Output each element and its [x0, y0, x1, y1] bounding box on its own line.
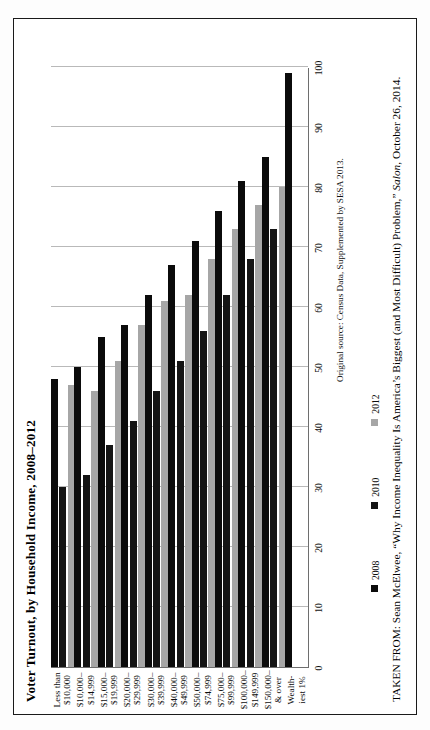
- legend-swatch-2012: [371, 419, 378, 426]
- value-tick-label: 10: [313, 603, 324, 613]
- legend-label-2012: 2012: [370, 394, 381, 413]
- legend-item-2012: 2012: [369, 394, 381, 425]
- value-tick-label: 80: [313, 183, 324, 193]
- caption-publication: Salon: [390, 165, 402, 191]
- value-tick-label: 60: [313, 303, 324, 313]
- bar-2010-5: [177, 361, 184, 667]
- legend-label-2008: 2008: [370, 561, 381, 580]
- book-page: Voter Turnout, by Household Income, 2008…: [0, 0, 430, 730]
- category-label-line-0: $15,000–: [99, 673, 109, 707]
- bar-2008-0: [51, 379, 58, 667]
- category-label-line-0: $75,000–: [216, 673, 226, 707]
- category-label: Wealth-iest 1%: [286, 676, 307, 705]
- category-label-line-0: $20,000–: [122, 673, 132, 707]
- category-label-line-0: Less than: [52, 673, 62, 708]
- bar-2008-6: [192, 241, 199, 667]
- category-label-line-1: $19,999: [109, 673, 119, 707]
- bar-2010-7: [223, 295, 230, 667]
- figure-caption: TAKEN FROM: Sean McElwee, “Why Income In…: [389, 42, 405, 702]
- category-label-line-0: $100,000–: [239, 670, 249, 709]
- category-label: $50,000–$74,999: [192, 673, 213, 707]
- category-label-line-1: $10,000: [62, 673, 72, 708]
- plot-inner: [51, 68, 309, 668]
- figure: Voter Turnout, by Household Income, 2008…: [17, 22, 415, 712]
- bar-2008-9: [262, 157, 269, 667]
- category-label-line-1: $99,999: [226, 673, 236, 707]
- caption-suffix: , October 26, 2014.: [390, 77, 402, 165]
- category-label-line-0: $30,000–: [146, 673, 156, 707]
- category-label-line-1: $29,999: [132, 673, 142, 707]
- category-label-line-0: $150,000–: [263, 670, 273, 709]
- category-label-line-1: $74,999: [203, 673, 213, 707]
- legend-item-2008: 2008: [369, 561, 381, 592]
- bar-2010-0: [59, 487, 66, 667]
- category-label: Less than$10,000: [52, 673, 73, 708]
- bar-2010-4: [153, 391, 160, 667]
- bar-2008-2: [98, 337, 105, 667]
- category-label: $10,000–$14,999: [75, 673, 96, 707]
- category-label-line-1: $39,999: [156, 673, 166, 707]
- category-label-line-1: & over: [273, 670, 283, 709]
- bar-2010-2: [106, 445, 113, 667]
- category-label: $100,000–$149,999: [239, 670, 260, 709]
- category-label: $75,000–$99,999: [216, 673, 237, 707]
- legend-swatch-2008: [371, 585, 378, 592]
- value-tick-label: 20: [313, 543, 324, 553]
- gridline: [51, 186, 308, 187]
- category-label: $15,000–$19,999: [99, 673, 120, 707]
- category-label: $20,000–$29,999: [122, 673, 143, 707]
- value-tick-label: 0: [313, 666, 324, 671]
- value-axis-ticks: 0102030405060708090100: [313, 68, 327, 668]
- category-label-line-0: $40,000–: [169, 673, 179, 707]
- bar-2010-6: [200, 331, 207, 667]
- category-label-line-0: $50,000–: [192, 673, 202, 707]
- bar-2008-7: [215, 211, 222, 667]
- bar-2008-5: [168, 265, 175, 667]
- page-frame: Voter Turnout, by Household Income, 2008…: [13, 18, 417, 715]
- category-label: $150,000–& over: [263, 670, 284, 709]
- bar-2008-1: [74, 367, 81, 667]
- category-label-line-1: iest 1%: [297, 676, 307, 705]
- bar-2010-3: [130, 421, 137, 667]
- bar-2010-8: [247, 259, 254, 667]
- value-tick-label: 70: [313, 243, 324, 253]
- legend-swatch-2010: [371, 502, 378, 509]
- value-tick-label: 40: [313, 423, 324, 433]
- bar-2008-10: [285, 73, 292, 667]
- category-label: $30,000–$39,999: [146, 673, 167, 707]
- chart-legend: 200820102012: [369, 342, 381, 592]
- bar-2008-3: [121, 325, 128, 667]
- caption-prefix: TAKEN FROM: Sean McElwee, “Why Income In…: [390, 191, 402, 702]
- category-label-line-0: $10,000–: [75, 673, 85, 707]
- rotated-figure-wrapper: Voter Turnout, by Household Income, 2008…: [14, 19, 418, 716]
- value-tick-label: 50: [313, 363, 324, 373]
- value-tick-label: 100: [313, 61, 324, 75]
- legend-item-2010: 2010: [369, 478, 381, 509]
- gridline: [51, 126, 308, 127]
- gridline: [51, 66, 308, 67]
- bar-2010-1: [83, 475, 90, 667]
- legend-label-2010: 2010: [370, 478, 381, 497]
- category-label-line-1: $14,999: [86, 673, 96, 707]
- source-note: Original source: Census Data, Supplement…: [335, 158, 345, 382]
- bar-2008-8: [238, 181, 245, 667]
- plot-area: [51, 68, 309, 668]
- category-label: $40,000–$49,999: [169, 673, 190, 707]
- category-label-line-1: $149,999: [250, 670, 260, 709]
- bar-2010-9: [270, 229, 277, 667]
- chart-title: Voter Turnout, by Household Income, 2008…: [23, 420, 39, 702]
- category-label-line-0: Wealth-: [286, 676, 296, 705]
- value-tick-label: 90: [313, 123, 324, 133]
- value-tick-label: 30: [313, 483, 324, 493]
- category-label-line-1: $49,999: [179, 673, 189, 707]
- bar-2008-4: [145, 295, 152, 667]
